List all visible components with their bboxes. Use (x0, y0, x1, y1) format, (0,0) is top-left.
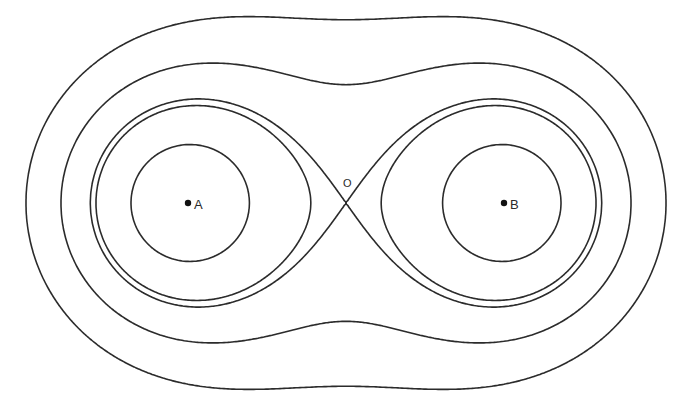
point-a: A (185, 197, 203, 212)
contour-lines (26, 17, 666, 390)
saddle-point-o-label: O (343, 177, 352, 189)
contour-diagram: A B O (0, 0, 686, 405)
contour-line (90, 99, 601, 307)
point-b-label: B (510, 197, 519, 212)
point-b-dot (501, 200, 507, 206)
point-a-dot (185, 200, 191, 206)
point-b: B (501, 197, 519, 212)
point-a-label: A (194, 197, 203, 212)
